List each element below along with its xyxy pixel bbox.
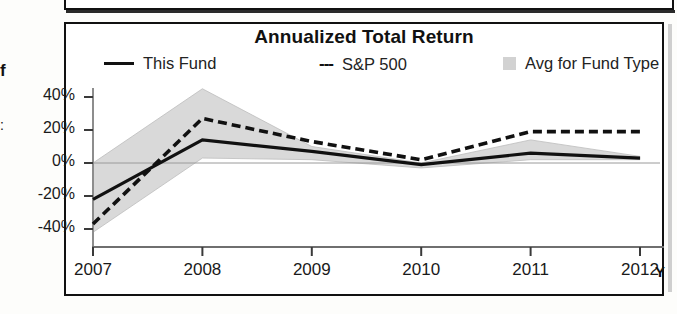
x-axis-unit-label: Y [655, 263, 665, 280]
y-axis-tick-label: -40% [15, 218, 75, 236]
y-axis-tick-label: -20% [15, 185, 75, 203]
x-axis-tick-label: 2007 [58, 260, 128, 280]
x-axis-tick-label: 2010 [386, 260, 456, 280]
x-axis-tick-label: 2008 [167, 260, 237, 280]
y-axis-tick-label: 0% [15, 152, 75, 170]
plot-area: -40%-20%0%20%40%200720082009201020112012 [0, 0, 677, 314]
x-axis-tick-label: 2009 [277, 260, 347, 280]
y-axis-tick-label: 40% [15, 86, 75, 104]
panel-right-edge [668, 24, 672, 292]
x-axis-tick-label: 2011 [496, 260, 566, 280]
y-axis-tick-label: 20% [15, 119, 75, 137]
